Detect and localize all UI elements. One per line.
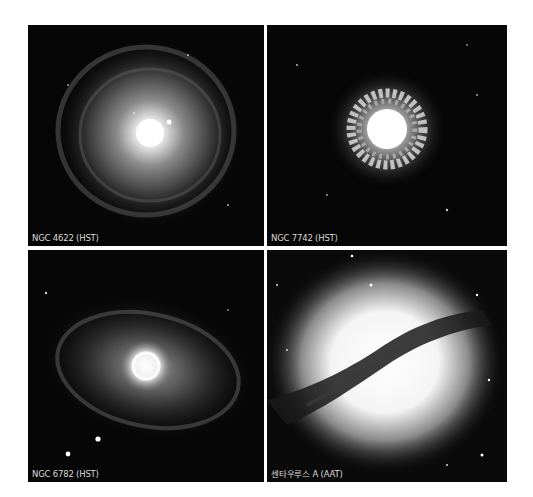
caption-centaurus-a: 센타우루스 A (AAT)	[271, 467, 343, 479]
panel-ngc6782: NGC 6782 (HST)	[28, 250, 264, 482]
galaxy-image-grid: NGC 4622 (HST) NGC 7742 (HST)	[28, 25, 507, 482]
caption-ngc7742: NGC 7742 (HST)	[271, 233, 338, 243]
ngc7742-galaxy-image	[267, 25, 507, 246]
panel-ngc7742: NGC 7742 (HST)	[267, 25, 507, 246]
caption-ngc6782: NGC 6782 (HST)	[32, 469, 99, 479]
ngc4622-galaxy-image	[28, 25, 264, 246]
ngc6782-galaxy-image	[28, 250, 264, 482]
centaurus-a-galaxy-image	[267, 250, 507, 482]
panel-ngc4622: NGC 4622 (HST)	[28, 25, 264, 246]
caption-ngc4622: NGC 4622 (HST)	[32, 233, 99, 243]
panel-centaurus-a: 센타우루스 A (AAT)	[267, 250, 507, 482]
